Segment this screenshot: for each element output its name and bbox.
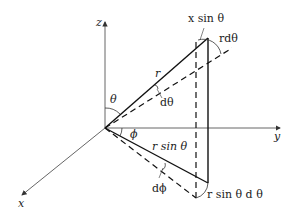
x-sin-theta-leader: [200, 28, 204, 40]
d-phi-label: dϕ: [152, 182, 167, 195]
r-label: r: [155, 67, 161, 80]
phi-label: ϕ: [130, 128, 138, 141]
phi-arc: [120, 128, 122, 136]
z-axis-label: z: [95, 16, 102, 29]
dtheta-arc: [155, 85, 158, 89]
r-sin-theta-line: [105, 128, 208, 183]
r-d-theta-label: rdθ: [219, 32, 238, 45]
dphi-leader: [159, 168, 163, 178]
d-theta-label: dθ: [160, 96, 174, 109]
axes: [22, 22, 280, 195]
radius-line: [105, 38, 208, 128]
x-axis: [22, 128, 105, 195]
x-sin-theta-label: x sin θ: [188, 12, 224, 25]
theta-label: θ: [110, 93, 117, 106]
r-sin-theta-d-theta-label: r sin θ d θ: [207, 188, 263, 201]
rdtheta-arc: [198, 39, 221, 54]
r-sin-theta-label: r sin θ: [152, 140, 187, 153]
spherical-coordinates-diagram: z y x θ ϕ r dθ dϕ r sin θ x sin θ rdθ r …: [0, 0, 296, 218]
radius-dtheta-line: [105, 48, 232, 128]
theta-arc: [105, 108, 120, 114]
x-axis-label: x: [18, 197, 25, 210]
r-sin-theta-dphi-line: [105, 128, 196, 198]
y-axis-label: y: [273, 130, 281, 143]
